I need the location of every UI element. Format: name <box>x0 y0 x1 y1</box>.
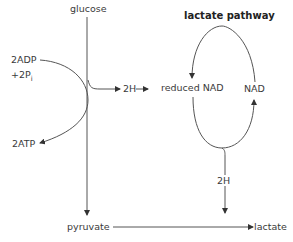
node-2h-bottom: 2H <box>217 176 230 186</box>
cycle-bottom-arrow <box>193 97 254 148</box>
node-pyruvate: pyruvate <box>67 222 110 232</box>
2h-down-arrow <box>222 148 225 175</box>
node-2atp: 2ATP <box>12 139 35 149</box>
diagram-canvas <box>0 0 293 242</box>
node-reduced-nad: reduced NAD <box>161 83 224 93</box>
node-lactate: lactate <box>254 222 287 232</box>
node-2h-left: 2H <box>123 84 136 94</box>
node-nad: NAD <box>244 84 265 94</box>
node-glucose: glucose <box>70 4 107 14</box>
diagram-title: lactate pathway <box>184 11 275 21</box>
cycle-top-arrow <box>192 26 255 82</box>
adp-to-atp-arrow <box>40 60 88 143</box>
node-2pi: +2Pi <box>11 70 33 83</box>
node-2adp: 2ADP <box>11 55 37 65</box>
glucose-to-2h-arrow <box>88 80 120 89</box>
